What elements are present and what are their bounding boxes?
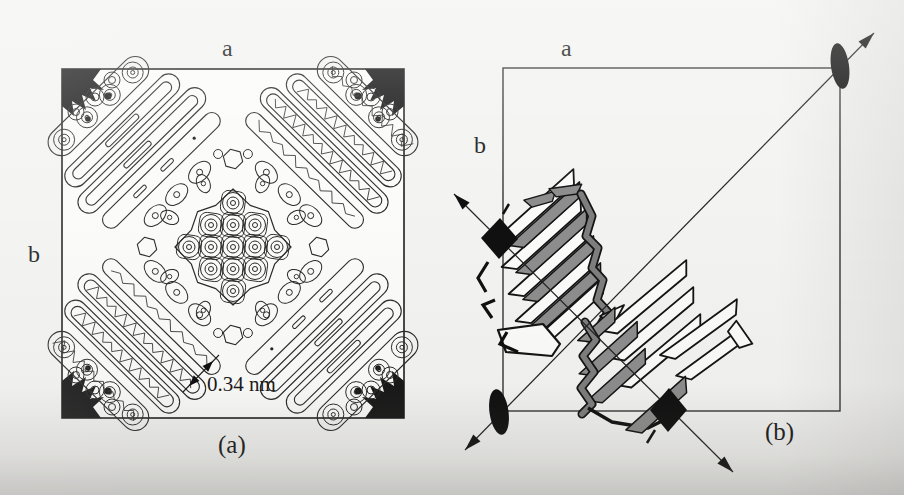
panel-b-axis-b-label: b bbox=[474, 132, 486, 158]
panel-b: a b (b) bbox=[454, 33, 874, 472]
symbol-tick bbox=[647, 430, 655, 443]
panel-a-caption: (a) bbox=[218, 431, 246, 459]
distance-annotation-label: 0.34 nm bbox=[207, 372, 276, 396]
ribbon-outline bbox=[478, 262, 488, 292]
twofold-ellipse-symbol-bottom-left bbox=[486, 388, 511, 436]
symbol-tick bbox=[503, 204, 509, 214]
panel-b-axis-a-label: a bbox=[561, 35, 572, 61]
figure-svg: 0.34 nm a b (a) a b (b) bbox=[0, 0, 904, 495]
ribbon-outline bbox=[483, 300, 495, 318]
panel-a-axis-b-label: b bbox=[28, 241, 40, 267]
panel-b-caption: (b) bbox=[765, 418, 794, 446]
scanned-paper-figure: 0.34 nm a b (a) a b (b) bbox=[0, 0, 904, 495]
twofold-ellipse-symbol-top-right bbox=[828, 42, 852, 90]
panel-a: 0.34 nm a b (a) bbox=[28, 35, 423, 459]
pleated-ribbon-structure bbox=[478, 169, 752, 433]
panel-a-axis-a-label: a bbox=[222, 35, 233, 61]
